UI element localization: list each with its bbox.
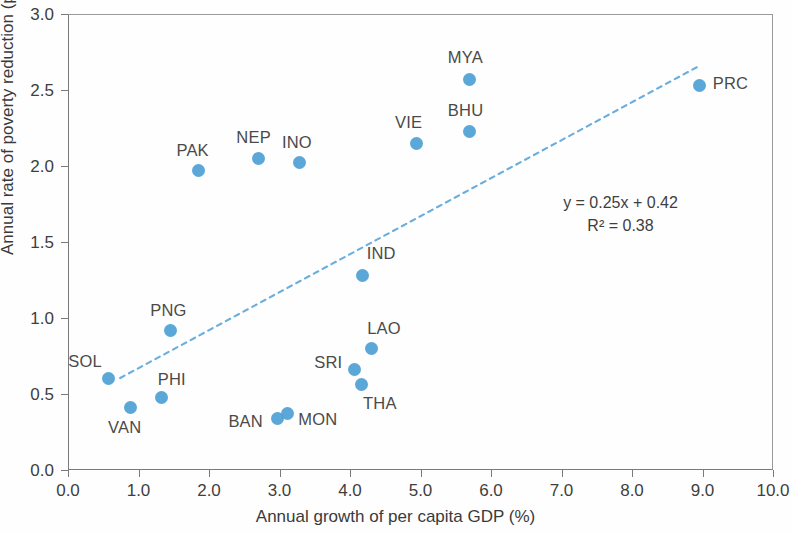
x-axis-tick bbox=[562, 470, 563, 477]
r-squared-text: R² = 0.38 bbox=[587, 217, 653, 234]
x-axis-tick-label: 1.0 bbox=[109, 482, 169, 499]
y-axis-tick-label: 0.0 bbox=[6, 462, 54, 479]
x-axis-tick-label: 2.0 bbox=[179, 482, 239, 499]
data-point[interactable] bbox=[252, 152, 265, 165]
x-axis-tick bbox=[209, 470, 210, 477]
y-axis-tick bbox=[61, 90, 68, 91]
x-axis-tick-label: 7.0 bbox=[532, 482, 592, 499]
y-axis-tick bbox=[61, 318, 68, 319]
data-point-label: LAO bbox=[367, 320, 401, 337]
y-axis-tick bbox=[61, 394, 68, 395]
y-axis-tick bbox=[61, 14, 68, 15]
x-axis-tick-label: 10.0 bbox=[743, 482, 791, 499]
data-point-label: BHU bbox=[448, 102, 483, 119]
x-axis-tick-label: 6.0 bbox=[461, 482, 521, 499]
data-point-label: NEP bbox=[236, 129, 271, 146]
y-axis-tick-label: 1.0 bbox=[6, 310, 54, 327]
data-point-label: PNG bbox=[150, 302, 186, 319]
data-point-label: INO bbox=[282, 134, 312, 151]
x-axis-tick bbox=[491, 470, 492, 477]
data-point[interactable] bbox=[348, 363, 361, 376]
data-point-label: VIE bbox=[395, 114, 422, 131]
data-point-label: PHI bbox=[158, 371, 186, 388]
data-point-label: SOL bbox=[68, 353, 102, 370]
data-point[interactable] bbox=[164, 324, 177, 337]
x-axis-tick-label: 3.0 bbox=[250, 482, 310, 499]
x-axis-tick-label: 8.0 bbox=[602, 482, 662, 499]
data-point-label: IND bbox=[367, 245, 396, 262]
data-point[interactable] bbox=[102, 372, 115, 385]
x-axis-tick-label: 9.0 bbox=[673, 482, 733, 499]
y-axis-tick-label: 0.5 bbox=[6, 386, 54, 403]
r-squared-value: R² = 0.38 bbox=[533, 214, 708, 237]
x-axis-tick bbox=[773, 470, 774, 477]
x-axis-title: Annual growth of per capita GDP (%) bbox=[0, 507, 791, 527]
plot-area bbox=[68, 14, 773, 470]
x-axis-tick-label: 4.0 bbox=[320, 482, 380, 499]
scatter-chart-figure: 0.00.51.01.52.02.53.0 0.01.02.03.04.05.0… bbox=[0, 0, 791, 534]
x-axis-tick bbox=[632, 470, 633, 477]
data-point-label: PAK bbox=[176, 142, 208, 159]
data-point-label: PRC bbox=[713, 75, 748, 92]
data-point-label: THA bbox=[363, 395, 397, 412]
data-point-label: BAN bbox=[228, 413, 263, 430]
data-point-label: VAN bbox=[108, 419, 141, 436]
data-point[interactable] bbox=[365, 342, 378, 355]
data-point[interactable] bbox=[463, 125, 476, 138]
data-point[interactable] bbox=[124, 401, 137, 414]
x-axis-tick bbox=[421, 470, 422, 477]
y-axis-title: Annual rate of poverty reduction (p.p.) bbox=[0, 0, 18, 255]
x-axis-tick bbox=[68, 470, 69, 477]
y-axis-tick bbox=[61, 470, 68, 471]
x-axis-tick bbox=[350, 470, 351, 477]
data-point-label: SRI bbox=[314, 354, 342, 371]
y-axis-tick bbox=[61, 242, 68, 243]
data-point-label: MYA bbox=[448, 49, 483, 66]
regression-annotation: y = 0.25x + 0.42 R² = 0.38 bbox=[533, 191, 708, 237]
x-axis-tick bbox=[703, 470, 704, 477]
x-axis-tick bbox=[280, 470, 281, 477]
data-point[interactable] bbox=[192, 164, 205, 177]
x-axis-tick-label: 5.0 bbox=[391, 482, 451, 499]
y-axis-tick bbox=[61, 166, 68, 167]
data-point[interactable] bbox=[155, 391, 168, 404]
data-point[interactable] bbox=[281, 407, 294, 420]
data-point-label: MON bbox=[298, 411, 337, 428]
x-axis-tick-label: 0.0 bbox=[38, 482, 98, 499]
x-axis-tick bbox=[139, 470, 140, 477]
regression-equation: y = 0.25x + 0.42 bbox=[533, 191, 708, 214]
